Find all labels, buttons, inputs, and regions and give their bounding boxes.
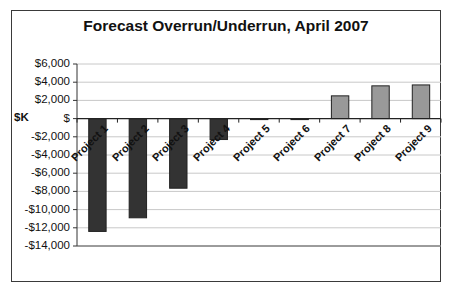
plot-area (0, 0, 452, 291)
bar-project-7 (331, 96, 348, 119)
bar-project-8 (372, 86, 389, 119)
bar-project-9 (412, 85, 429, 119)
